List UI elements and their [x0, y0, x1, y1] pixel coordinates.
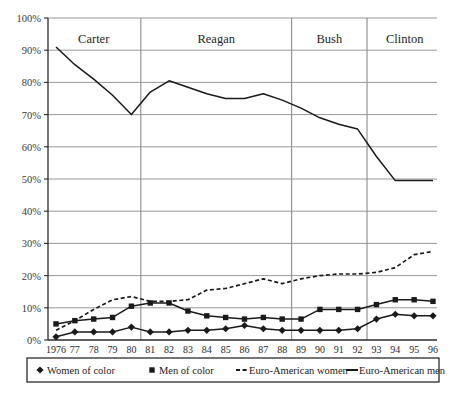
- data-point-square: [280, 316, 285, 321]
- data-point-diamond: [297, 327, 304, 334]
- data-series: [52, 47, 436, 340]
- y-tick-label: 10%: [22, 303, 42, 314]
- data-point-diamond: [203, 327, 210, 334]
- data-point-diamond: [90, 328, 97, 335]
- data-point-square: [149, 367, 154, 372]
- y-tick-label: 60%: [22, 142, 42, 153]
- y-axis-tick-labels: 0%10%20%30%40%50%60%70%80%90%100%: [17, 13, 42, 346]
- data-point-square: [298, 316, 303, 321]
- legend-entry-euro-american-men[interactable]: Euro-American men: [346, 365, 446, 376]
- era-label-bush: Bush: [316, 32, 342, 46]
- x-tick-label: 78: [89, 344, 99, 355]
- x-axis-tick-labels: 1976777879808182838485868788899091929394…: [46, 344, 438, 355]
- legend-entry-women-of-color[interactable]: Women of color: [36, 365, 115, 376]
- y-tick-label: 90%: [22, 45, 42, 56]
- data-point-square: [242, 316, 247, 321]
- x-tick-label: 96: [428, 344, 438, 355]
- x-tick-label: 1976: [46, 344, 66, 355]
- x-tick-label: 87: [258, 344, 268, 355]
- data-point-square: [393, 297, 398, 302]
- data-point-diamond: [71, 328, 78, 335]
- legend-entry-men-of-color[interactable]: Men of color: [149, 365, 214, 376]
- x-tick-label: 85: [221, 344, 231, 355]
- y-tick-label: 80%: [22, 77, 42, 88]
- era-label-reagan: Reagan: [197, 32, 235, 46]
- data-point-square: [355, 307, 360, 312]
- data-point-square: [204, 313, 209, 318]
- data-point-diamond: [392, 311, 399, 318]
- legend-label: Women of color: [47, 365, 115, 376]
- data-point-diamond: [241, 322, 248, 329]
- data-point-diamond: [411, 312, 418, 319]
- data-point-diamond: [222, 325, 229, 332]
- data-point-diamond: [184, 327, 191, 334]
- data-point-square: [411, 297, 416, 302]
- x-tick-label: 84: [202, 344, 212, 355]
- x-tick-label: 89: [296, 344, 306, 355]
- legend-label: Euro-American women: [249, 365, 349, 376]
- data-point-square: [317, 307, 322, 312]
- data-point-square: [185, 308, 190, 313]
- data-point-square: [129, 303, 134, 308]
- x-tick-label: 95: [409, 344, 419, 355]
- data-point-diamond: [429, 312, 436, 319]
- data-point-square: [374, 302, 379, 307]
- data-point-diamond: [373, 315, 380, 322]
- x-tick-label: 83: [183, 344, 193, 355]
- series-euro-american-men: [56, 47, 433, 181]
- x-tick-label: 88: [277, 344, 287, 355]
- chart-container: 0%10%20%30%40%50%60%70%80%90%100% 197677…: [0, 0, 449, 401]
- era-labels: CarterReaganBushClinton: [78, 32, 424, 46]
- x-tick-label: 81: [145, 344, 155, 355]
- legend-label: Men of color: [159, 365, 214, 376]
- data-point-diamond: [109, 328, 116, 335]
- era-label-carter: Carter: [78, 32, 110, 46]
- series-line: [56, 47, 433, 181]
- y-tick-label: 70%: [22, 110, 42, 121]
- x-tick-label: 93: [371, 344, 381, 355]
- x-tick-label: 82: [164, 344, 174, 355]
- y-tick-label: 0%: [27, 335, 41, 346]
- data-point-diamond: [52, 333, 59, 340]
- era-label-clinton: Clinton: [386, 32, 424, 46]
- y-tick-label: 100%: [17, 13, 42, 24]
- line-chart: 0%10%20%30%40%50%60%70%80%90%100% 197677…: [0, 0, 449, 401]
- data-point-diamond: [335, 327, 342, 334]
- x-tick-label: 86: [240, 344, 250, 355]
- data-point-diamond: [166, 328, 173, 335]
- legend-label: Euro-American men: [359, 365, 446, 376]
- x-tick-label: 91: [334, 344, 344, 355]
- data-point-diamond: [128, 324, 135, 331]
- y-tick-label: 30%: [22, 238, 42, 249]
- data-point-square: [91, 316, 96, 321]
- data-point-square: [53, 321, 58, 326]
- y-tick-label: 20%: [22, 271, 42, 282]
- data-point-square: [336, 307, 341, 312]
- x-tick-label: 79: [108, 344, 118, 355]
- data-point-square: [430, 299, 435, 304]
- y-tick-label: 40%: [22, 206, 42, 217]
- x-tick-label: 94: [390, 344, 400, 355]
- data-point-diamond: [147, 328, 154, 335]
- data-point-square: [110, 315, 115, 320]
- data-point-diamond: [260, 325, 267, 332]
- x-tick-label: 80: [126, 344, 136, 355]
- data-point-diamond: [316, 327, 323, 334]
- x-tick-label: 77: [70, 344, 80, 355]
- gridlines: [48, 18, 437, 308]
- x-tick-label: 92: [353, 344, 363, 355]
- legend-entry-euro-american-women[interactable]: Euro-American women: [236, 365, 349, 376]
- data-point-square: [223, 315, 228, 320]
- data-point-square: [261, 315, 266, 320]
- x-tick-label: 90: [315, 344, 325, 355]
- y-tick-label: 50%: [22, 174, 42, 185]
- data-point-diamond: [354, 325, 361, 332]
- data-point-diamond: [279, 327, 286, 334]
- chart-legend: Women of colorMen of colorEuro-American …: [27, 358, 446, 382]
